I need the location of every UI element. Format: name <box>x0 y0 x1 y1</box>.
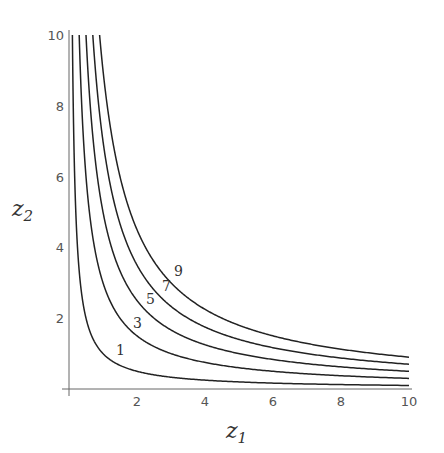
x-tick-label: 2 <box>133 394 141 409</box>
y-tick-labels: 246810 <box>47 28 64 326</box>
curve-label: 1 <box>116 342 125 358</box>
y-axis-label: z2 <box>11 196 33 225</box>
curve-level-1 <box>72 35 409 385</box>
y-tick-label: 4 <box>56 240 64 255</box>
y-tick-label: 10 <box>47 28 64 43</box>
level-curves-chart: 246810 246810 13579 z1 z2 <box>0 0 444 453</box>
x-tick-label: 8 <box>337 394 345 409</box>
x-tick-label: 6 <box>269 394 277 409</box>
x-axis-label: z1 <box>225 418 247 447</box>
x-tick-labels: 246810 <box>133 394 417 409</box>
y-tick-label: 8 <box>56 99 64 114</box>
curve-label: 5 <box>146 291 155 307</box>
y-tick-label: 6 <box>56 170 64 185</box>
y-tick-label: 2 <box>56 311 64 326</box>
x-tick-label: 10 <box>401 394 418 409</box>
curves <box>72 35 409 385</box>
curve-label: 3 <box>133 315 142 331</box>
x-tick-label: 4 <box>201 394 209 409</box>
curve-label: 9 <box>174 263 183 279</box>
curve-label: 7 <box>162 278 171 294</box>
curve-level-9 <box>100 35 409 357</box>
